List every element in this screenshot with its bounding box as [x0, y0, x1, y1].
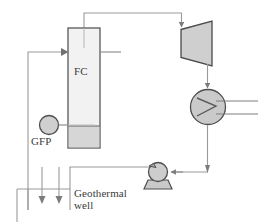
- condenser: [191, 90, 259, 125]
- gfp-label: GFP: [31, 136, 51, 148]
- pipe-fc-to-turbine: [84, 13, 182, 28]
- condenser-shell: [191, 90, 226, 125]
- diagram-canvas: [0, 0, 261, 223]
- flash-chamber-label: FC: [74, 66, 88, 78]
- stream-flash-chamber-to-turbine: [84, 13, 182, 28]
- flash-chamber: [68, 28, 100, 148]
- geothermal-plant-diagram: FC GFP Geothermalwell: [0, 0, 261, 223]
- turbine-body: [181, 21, 212, 66]
- pipe-condenser-to-pump: [172, 125, 208, 172]
- geothermal-well-label-line1: Geothermal: [74, 187, 127, 199]
- geothermal-well-label: Geothermalwell: [74, 188, 127, 212]
- gfp-body: [40, 116, 59, 135]
- turbine: [181, 21, 212, 66]
- geothermal-well-label-line2: well: [74, 199, 93, 211]
- stream-condenser-to-pump: [171, 125, 210, 173]
- geothermal-well: [17, 167, 70, 222]
- flash-chamber-liquid-level: [69, 126, 100, 147]
- arrowhead-reinjection-1: [39, 196, 46, 204]
- arrowhead-reinjection-2: [56, 196, 63, 204]
